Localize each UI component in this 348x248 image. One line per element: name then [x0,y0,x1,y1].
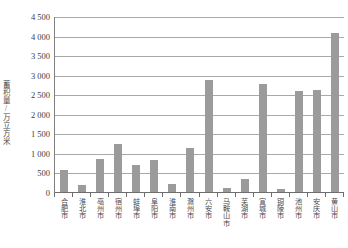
x-tick [253,193,254,197]
bar-chart: 蓄积量/万立方米 4 5004 0003 5003 0002 5002 0001… [0,0,348,248]
bar [132,165,140,193]
x-tick [235,193,236,197]
bar [295,91,303,193]
bar [150,160,158,193]
x-category-label: 滁州市 [185,198,194,220]
x-tick [325,193,326,197]
y-tick-label: 500 [37,169,50,178]
x-tick [54,193,55,197]
x-category-label: 六安市 [203,198,212,220]
x-category-label: 亳州市 [95,198,104,220]
bar [96,159,104,193]
bar [259,84,267,194]
bar [241,179,249,193]
x-category-label: 芜湖市 [239,198,248,220]
x-category-label: 黄山市 [329,198,338,220]
x-category-label: 淮南市 [167,198,176,220]
y-tick-label: 2 500 [31,91,50,100]
x-tick [217,193,218,197]
plot-area [54,17,344,193]
x-category-label: 淮北市 [77,198,86,220]
bar [186,148,194,193]
y-tick-label: 3 000 [31,71,50,80]
x-tick [343,193,344,197]
x-category-label: 阜阳市 [149,198,158,220]
x-category-label: 蚌埠市 [131,198,140,220]
bar [205,80,213,193]
x-category-label: 宿州市 [113,198,122,220]
x-tick [307,193,308,197]
y-tick-label: 1 500 [31,130,50,139]
y-axis-title: 蓄积量/万立方米 [0,52,12,172]
x-tick [72,193,73,197]
x-category-label: 马鞍山市 [221,198,230,227]
x-tick [180,193,181,197]
x-tick [271,193,272,197]
x-tick [90,193,91,197]
bar [313,90,321,193]
y-tick-label: 0 [46,189,50,198]
x-category-label: 铜陵市 [275,198,284,220]
bar [60,170,68,193]
x-axis-category-labels: 合肥市淮北市亳州市宿州市蚌埠市阜阳市淮南市滁州市六安市马鞍山市芜湖市宣城市铜陵市… [54,198,343,244]
y-tick-label: 1 000 [31,149,50,158]
y-tick-label: 4 500 [31,13,50,22]
x-tick [126,193,127,197]
x-category-label: 宣城市 [257,198,266,220]
y-tick-label: 4 000 [31,32,50,41]
x-axis-ticks [54,193,343,197]
x-tick [199,193,200,197]
y-tick-label: 2 000 [31,110,50,119]
x-category-label: 合肥市 [59,198,68,220]
y-tick-label: 3 500 [31,52,50,61]
y-axis-tick-labels: 4 5004 0003 5003 0002 5002 0001 5001 000… [12,17,52,193]
bars-layer [55,17,344,193]
x-tick [144,193,145,197]
x-tick [162,193,163,197]
x-category-label: 安庆市 [311,198,320,220]
bar [331,33,339,193]
x-tick [108,193,109,197]
bar [114,144,122,193]
x-category-label: 池州市 [293,198,302,220]
x-tick [289,193,290,197]
